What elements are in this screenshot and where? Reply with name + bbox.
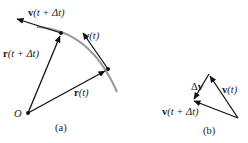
diagram-a: v(t + Δt) v(t) r(t + Δt) r(t) O (a) bbox=[3, 7, 117, 134]
r-t-vector bbox=[28, 71, 105, 113]
label-v-t: v(t) bbox=[84, 30, 100, 42]
v-t-plus-dt-vector bbox=[17, 19, 61, 33]
label-r-t-plus-dt: r(t + Δt) bbox=[3, 48, 40, 60]
label-origin: O bbox=[14, 108, 22, 119]
point-t-plus-dt bbox=[59, 31, 63, 35]
label-b-v-t-plus-dt: v(t + Δt) bbox=[162, 106, 199, 118]
trajectory-curve bbox=[37, 27, 117, 92]
label-b-v-t: v(t) bbox=[222, 84, 238, 96]
velocity-diagram: v(t + Δt) v(t) r(t + Δt) r(t) O (a) Δv v… bbox=[0, 0, 248, 143]
diagram-b: Δv v(t) v(t + Δt) (b) bbox=[162, 74, 238, 137]
origin-point bbox=[26, 111, 30, 115]
label-r-t: r(t) bbox=[74, 87, 89, 99]
caption-a: (a) bbox=[55, 122, 67, 134]
caption-b: (b) bbox=[203, 125, 216, 137]
point-t bbox=[106, 67, 110, 71]
b-v-t-vector bbox=[210, 76, 238, 118]
label-v-t-plus-dt: v(t + Δt) bbox=[28, 7, 65, 19]
label-delta-v: Δv bbox=[191, 81, 204, 92]
b-v-t-plus-dt-vector bbox=[194, 101, 238, 118]
